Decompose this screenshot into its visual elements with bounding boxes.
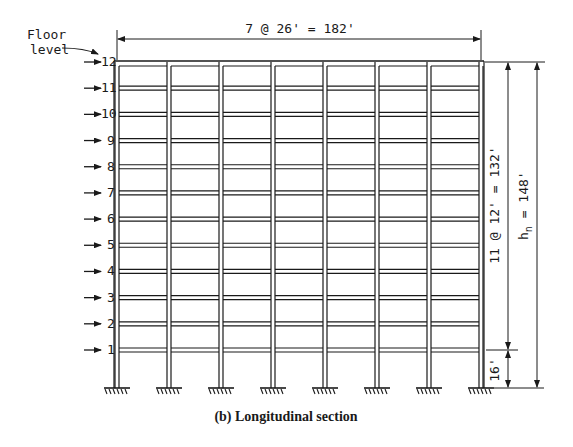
frame-beams <box>114 61 484 388</box>
floor-marker-9: 9 <box>84 133 115 148</box>
floor-label: 8 <box>107 159 115 174</box>
floor-level-label-line1: Floor <box>27 27 66 42</box>
floor-label: 3 <box>107 290 115 305</box>
floor-beams-1 <box>119 348 479 352</box>
floor-beams-5 <box>119 243 479 247</box>
floor-beams-2 <box>119 322 479 326</box>
column-4 <box>271 62 275 388</box>
floor-beams-10 <box>119 112 479 116</box>
floor-label: 2 <box>107 316 115 331</box>
fixed-support-icon <box>260 388 286 394</box>
fixed-support-icon <box>468 388 494 394</box>
floor-marker-4: 4 <box>84 263 115 278</box>
column-8 <box>479 62 483 388</box>
fixed-support-icon <box>156 388 182 394</box>
floor-beams-7 <box>119 191 479 195</box>
floor-beams-4 <box>119 269 479 273</box>
total-height-symbol: h <box>516 232 531 240</box>
floor-marker-8: 8 <box>84 159 115 174</box>
longitudinal-section-diagram: Floor level 7 @ 26' = 182' 1211109876543… <box>0 0 573 447</box>
floor-load-markers: 121110987654321 <box>84 54 117 357</box>
frame-columns <box>115 62 483 388</box>
floor-marker-1: 1 <box>84 342 115 357</box>
column-2 <box>167 62 171 388</box>
floor-label: 4 <box>107 263 115 278</box>
top-dimension-label: 7 @ 26' = 182' <box>245 21 355 36</box>
fixed-support-icon <box>104 388 130 394</box>
column-3 <box>219 62 223 388</box>
total-height-value: = 148' <box>516 171 531 226</box>
figure-caption: (b) Longitudinal section <box>214 409 357 425</box>
floor-label: 7 <box>107 185 115 200</box>
floor-beams-11 <box>119 86 479 90</box>
fixed-support-icon <box>312 388 338 394</box>
floor-marker-10: 10 <box>84 106 117 121</box>
fixed-supports <box>104 388 494 394</box>
floor-marker-6: 6 <box>84 211 115 226</box>
floor-label: 6 <box>107 211 115 226</box>
floor-label: 1 <box>107 342 115 357</box>
total-height-dimension-label: hn = 148' <box>516 171 534 240</box>
floor-label: 5 <box>107 237 115 252</box>
typical-stories-dimension-label: 11 @ 12' = 132' <box>487 146 502 263</box>
fixed-support-icon <box>416 388 442 394</box>
floor-marker-12: 12 <box>84 54 117 69</box>
column-7 <box>427 62 431 388</box>
floor-marker-2: 2 <box>84 316 115 331</box>
fixed-support-icon <box>364 388 390 394</box>
floor-beams-8 <box>119 165 479 169</box>
floor-label: 11 <box>101 80 117 95</box>
fixed-support-icon <box>208 388 234 394</box>
floor-label: 9 <box>107 133 115 148</box>
first-story-dimension-label: 16' <box>487 358 502 381</box>
floor-marker-3: 3 <box>84 290 115 305</box>
floor-beams-3 <box>119 296 479 300</box>
column-6 <box>375 62 379 388</box>
column-5 <box>323 62 327 388</box>
floor-beams-6 <box>119 217 479 221</box>
floor-label: 10 <box>101 106 117 121</box>
floor-marker-5: 5 <box>84 237 115 252</box>
floor-marker-11: 11 <box>84 80 117 95</box>
floor-beams-9 <box>119 139 479 143</box>
floor-marker-7: 7 <box>84 185 115 200</box>
floor-label: 12 <box>101 54 117 69</box>
floor-level-label-line2: level <box>30 42 69 57</box>
